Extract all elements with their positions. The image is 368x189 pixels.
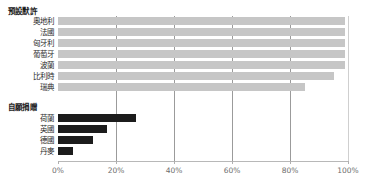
bar-portugal xyxy=(58,50,345,58)
x-tick-label-60: 60% xyxy=(215,166,249,175)
x-tick-label-40: 40% xyxy=(157,166,191,175)
x-tick-40 xyxy=(174,161,175,164)
x-tick-60 xyxy=(232,161,233,164)
bar-hungary xyxy=(58,39,345,47)
x-tick-label-20: 20% xyxy=(99,166,133,175)
category-label-france: 法國 xyxy=(8,28,54,37)
category-label-denmark: 丹麥 xyxy=(8,147,54,156)
organ-donation-bar-chart: 預設默許 奧地利 法國 匈牙利 葡萄牙 波蘭 比利時 瑞典 自願捐贈 荷蘭 英國… xyxy=(0,0,368,189)
category-label-belgium: 比利時 xyxy=(8,72,54,81)
bar-france xyxy=(58,28,345,36)
x-tick-label-80: 80% xyxy=(273,166,307,175)
x-tick-0 xyxy=(58,161,59,164)
category-label-hungary: 匈牙利 xyxy=(8,39,54,48)
category-label-poland: 波蘭 xyxy=(8,61,54,70)
category-label-portugal: 葡萄牙 xyxy=(8,50,54,59)
x-tick-label-0: 0% xyxy=(41,166,75,175)
bar-austria xyxy=(58,17,345,25)
plot-area xyxy=(58,16,348,161)
x-axis-line xyxy=(58,161,348,162)
x-tick-100 xyxy=(348,161,349,164)
bar-germany xyxy=(58,136,93,144)
x-tick-80 xyxy=(290,161,291,164)
bar-belgium xyxy=(58,72,334,80)
group-heading-presumed-consent: 預設默許 xyxy=(8,7,37,16)
group-heading-voluntary-donation: 自願捐贈 xyxy=(8,103,37,112)
gridline-100 xyxy=(348,16,349,161)
category-label-germany: 德國 xyxy=(8,136,54,145)
category-label-sweden: 瑞典 xyxy=(8,83,54,92)
bar-sweden xyxy=(58,83,305,91)
bar-denmark xyxy=(58,147,73,155)
category-label-austria: 奧地利 xyxy=(8,17,54,26)
bar-united-kingdom xyxy=(58,125,107,133)
x-tick-20 xyxy=(116,161,117,164)
category-label-united-kingdom: 英國 xyxy=(8,125,54,134)
category-label-netherlands: 荷蘭 xyxy=(8,114,54,123)
bar-poland xyxy=(58,61,345,69)
bar-netherlands xyxy=(58,114,136,122)
x-tick-label-100: 100% xyxy=(331,166,365,175)
